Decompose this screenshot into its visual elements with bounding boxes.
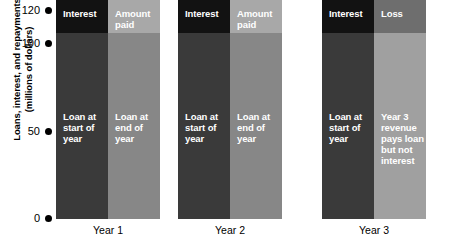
segment-loan-at-end-of-year: Loan at end of year — [108, 33, 160, 219]
x-axis-label-year-3: Year 3 — [322, 224, 426, 237]
segment-amount-paid: Amount paid — [108, 0, 160, 33]
x-axis-label-year-1: Year 1 — [56, 224, 160, 237]
bar-year-3-revenue-pays-loan: Loss Year 3 revenue pays loan but not in… — [374, 0, 426, 219]
segment-interest: Interest — [178, 0, 230, 33]
y-tick-label-50: 50 — [28, 125, 40, 137]
bar-group-year-2: Interest Loan at start of year Amount pa… — [178, 0, 282, 219]
segment-label: Loan at end of year — [115, 111, 160, 144]
segment-loan-at-start-of-year: Loan at start of year — [322, 33, 374, 219]
segment-label: Loan at start of year — [185, 111, 230, 144]
segment-label: Amount paid — [115, 8, 160, 30]
segment-label: Loan at start of year — [63, 111, 108, 144]
segment-label: Loss — [381, 8, 403, 19]
bar-group-year-1: Interest Loan at start of year Amount pa… — [56, 0, 160, 219]
y-tick-marker-50 — [45, 128, 52, 135]
segment-label: Interest — [185, 8, 219, 19]
segment-year-3-revenue-pays-loan-but-not-interest: Year 3 revenue pays loan but not interes… — [374, 33, 426, 219]
segment-loss: Loss — [374, 0, 426, 33]
segment-interest: Interest — [322, 0, 374, 33]
bar-group-year-3: Interest Loan at start of year Loss Year… — [322, 0, 426, 219]
segment-loan-at-start-of-year: Loan at start of year — [178, 33, 230, 219]
segment-loan-at-end-of-year: Loan at end of year — [230, 33, 282, 219]
bar-year-2-loan-end: Amount paid Loan at end of year — [230, 0, 282, 219]
stacked-bar-chart: Loans, interest, and repayments (million… — [0, 0, 453, 251]
segment-label: Year 3 revenue pays loan but not interes… — [381, 111, 426, 166]
y-tick-marker-0 — [45, 215, 52, 222]
segment-label: Loan at start of year — [329, 111, 374, 144]
y-tick-label-100: 100 — [22, 37, 40, 49]
segment-label: Amount paid — [237, 8, 282, 30]
y-tick-0: 0 — [0, 212, 52, 224]
bar-year-3-loan-start: Interest Loan at start of year — [322, 0, 374, 219]
y-tick-100: 100 — [0, 37, 52, 49]
segment-loan-at-start-of-year: Loan at start of year — [56, 33, 108, 219]
segment-label: Interest — [63, 8, 97, 19]
plot-area: Interest Loan at start of year Amount pa… — [56, 0, 453, 219]
y-tick-marker-120 — [45, 7, 52, 14]
bar-year-1-loan-start: Interest Loan at start of year — [56, 0, 108, 219]
bar-year-2-loan-start: Interest Loan at start of year — [178, 0, 230, 219]
segment-amount-paid: Amount paid — [230, 0, 282, 33]
y-tick-50: 50 — [0, 125, 52, 137]
bar-year-1-loan-end: Amount paid Loan at end of year — [108, 0, 160, 219]
y-tick-120: 120 — [0, 4, 52, 16]
y-tick-label-120: 120 — [22, 4, 40, 16]
y-tick-label-0: 0 — [34, 212, 40, 224]
x-axis-label-year-2: Year 2 — [178, 224, 282, 237]
segment-interest: Interest — [56, 0, 108, 33]
segment-label: Interest — [329, 8, 363, 19]
segment-label: Loan at end of year — [237, 111, 282, 144]
y-tick-marker-100 — [45, 40, 52, 47]
